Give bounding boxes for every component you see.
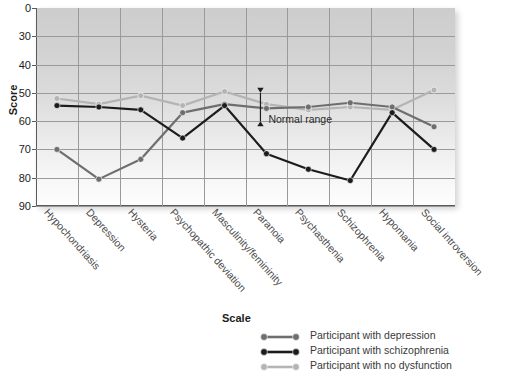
x-axis-labels: HypochondriasisDepressionHysteriaPsychop… — [36, 206, 455, 306]
y-tick-label: 30 — [19, 30, 31, 42]
y-tick-label: 0 — [25, 2, 31, 14]
y-axis-title: Score — [7, 85, 19, 116]
normal-range-arrow-head — [257, 88, 263, 93]
normal-range-annotation: Normal range — [268, 113, 332, 125]
legend-item: Participant with depression — [258, 328, 452, 342]
x-tick-label: Social introversion — [419, 206, 485, 278]
legend-item: Participant with no dysfunction — [258, 358, 452, 372]
legend-items: Participant with depressionParticipant w… — [258, 328, 452, 372]
y-tick-label: 80 — [19, 172, 31, 184]
legend-marker — [258, 359, 302, 371]
legend-label: Participant with no dysfunction — [310, 359, 452, 371]
normal-range-arrow-head — [257, 121, 263, 126]
x-tick-label: Masculinity/femininity — [210, 206, 285, 288]
x-tick-label: Psychopathic deviation — [168, 206, 249, 294]
plot-area: 030405060708090 Normal range — [36, 8, 455, 206]
y-tick-label: 40 — [19, 59, 31, 71]
legend-label: Participant with depression — [310, 329, 435, 341]
legend-label: Participant with schizophrenia — [310, 344, 449, 356]
legend-title: Scale — [222, 312, 452, 324]
x-tick-label: Paranoia — [252, 206, 289, 245]
x-tick-label: Hypomania — [377, 206, 421, 254]
legend-marker — [258, 344, 302, 356]
legend-marker — [258, 329, 302, 341]
legend-item: Participant with schizophrenia — [258, 343, 452, 357]
x-tick-label: Depression — [84, 206, 128, 254]
chart-legend: Scale Participant with depressionPartici… — [222, 312, 452, 373]
y-tick-label: 60 — [19, 115, 31, 127]
y-tick-label: 90 — [19, 200, 31, 212]
x-tick-label: Hysteria — [126, 206, 161, 243]
y-tick-label: 50 — [19, 87, 31, 99]
chart-figure: 030405060708090 Normal range Score Hypoc… — [0, 0, 514, 375]
annotation-layer — [36, 8, 455, 206]
y-tick-label: 70 — [19, 143, 31, 155]
